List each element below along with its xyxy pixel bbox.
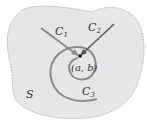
diagram: C1 C2 C3 (a, b) S [0, 0, 147, 122]
label-c1: C1 [55, 26, 68, 39]
label-c2: C2 [88, 22, 101, 35]
point-ab [78, 54, 82, 58]
label-c3: C3 [82, 86, 95, 99]
diagram-canvas [0, 0, 147, 122]
label-point: (a, b) [71, 63, 98, 73]
label-region-s: S [26, 89, 34, 100]
